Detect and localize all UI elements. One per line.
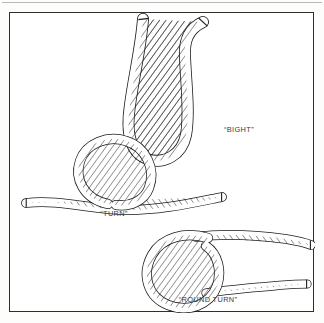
rope-turn [18,131,230,221]
rope-terminology-illustration: “BIGHT” “TURN” “ROUND TURN” [10,13,315,313]
label-bight: “BIGHT” [224,125,254,134]
label-round-turn: “ROUND TURN” [179,295,238,304]
page-canvas: “BIGHT” “TURN” “ROUND TURN” [0,0,324,323]
figure-frame: “BIGHT” “TURN” “ROUND TURN” [9,12,314,312]
page-top-rule [2,2,322,3]
label-turn: “TURN” [100,209,128,218]
